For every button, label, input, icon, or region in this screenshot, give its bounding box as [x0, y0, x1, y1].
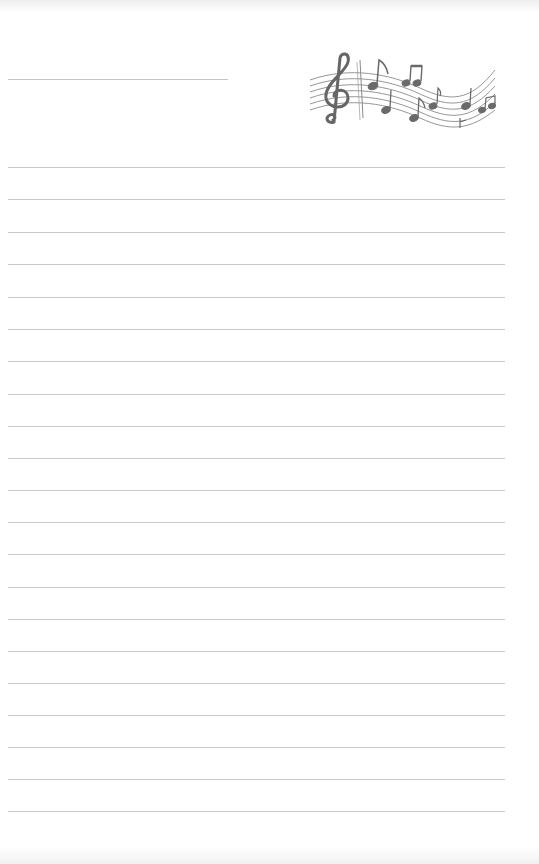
ruled-line-20	[8, 779, 505, 780]
ruled-line-10	[8, 458, 505, 459]
ruled-line-3	[8, 232, 505, 233]
ruled-line-21	[8, 811, 505, 812]
music-staff-treble-clef-notes-icon	[300, 52, 500, 130]
ruled-line-1	[8, 167, 505, 168]
ruled-line-13	[8, 554, 505, 555]
ruled-line-18	[8, 715, 505, 716]
ruled-line-16	[8, 651, 505, 652]
ruled-line-11	[8, 490, 505, 491]
ruled-line-7	[8, 361, 505, 362]
ruled-line-19	[8, 747, 505, 748]
ruled-line-15	[8, 619, 505, 620]
ruled-line-17	[8, 683, 505, 684]
ruled-line-9	[8, 426, 505, 427]
scan-shadow-top	[0, 0, 539, 12]
ruled-line-4	[8, 264, 505, 265]
ruled-line-12	[8, 522, 505, 523]
scan-shadow-bottom	[0, 846, 539, 864]
title-line	[8, 79, 228, 80]
ruled-line-2	[8, 199, 505, 200]
ruled-line-14	[8, 587, 505, 588]
ruled-line-8	[8, 394, 505, 395]
ruled-line-5	[8, 297, 505, 298]
ruled-line-6	[8, 329, 505, 330]
